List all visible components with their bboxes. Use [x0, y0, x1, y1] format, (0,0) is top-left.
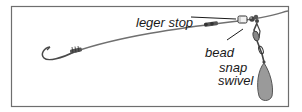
leger-stop-icon — [238, 16, 247, 23]
leger-rig-diagram: leger stop bead snap swivel — [0, 0, 302, 112]
label-leger-stop: leger stop — [136, 15, 193, 30]
label-bead: bead — [205, 45, 235, 60]
label-swivel: swivel — [218, 73, 255, 88]
